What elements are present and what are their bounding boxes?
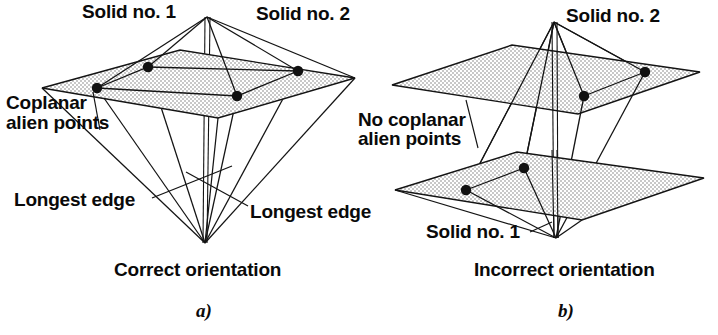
alien-point-dot (293, 66, 303, 76)
alien-point-dot (579, 91, 589, 101)
panel-letter-b: b) (558, 300, 574, 322)
edge-lower-p3 (205, 96, 237, 243)
alien-point-dot (232, 91, 242, 101)
label-coplanar-alien-points-line1: Coplanar (6, 93, 87, 112)
caption-panel-b: Incorrect orientation (474, 260, 655, 280)
panel-letter-a: a) (196, 300, 212, 322)
label-solid-1-b: Solid no. 1 (426, 222, 520, 242)
edge-lower-front-to-bottom (556, 220, 582, 238)
label-no-coplanar-alien-points-line1: No coplanar (358, 110, 466, 129)
leader-longest-edge-left (152, 166, 232, 198)
alien-point-dot (519, 163, 529, 173)
alien-point-dot (92, 83, 102, 93)
label-no-coplanar-alien-points-line2: alien points (358, 129, 461, 148)
label-longest-edge-left: Longest edge (14, 190, 135, 210)
label-solid-2-b: Solid no. 2 (566, 6, 660, 26)
leader-longest-edge-right (186, 172, 248, 206)
label-coplanar-alien-points-line2: alien points (6, 113, 109, 132)
leader-no-coplanar-points (466, 100, 478, 148)
upper-plane-b (392, 45, 700, 114)
axis-line-left (203, 17, 205, 243)
label-solid-1-a: Solid no. 1 (82, 2, 176, 22)
caption-panel-a: Correct orientation (114, 260, 281, 280)
coplanar-plane-a (42, 50, 355, 118)
label-solid-2-a: Solid no. 2 (256, 4, 350, 24)
lower-plane-b (395, 152, 704, 220)
alien-point-dot (640, 67, 650, 77)
label-longest-edge-right: Longest edge (250, 202, 371, 222)
technical-diagram-svg (0, 0, 718, 335)
alien-point-dot (143, 62, 153, 72)
alien-point-dot (461, 185, 471, 195)
figure-root: Solid no. 1 Solid no. 2 Coplanar alien p… (0, 0, 718, 335)
